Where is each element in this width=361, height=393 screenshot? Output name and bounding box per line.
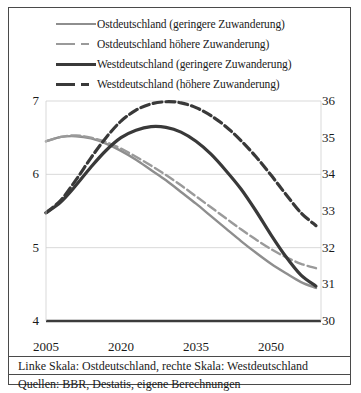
y-axis-right-tick-label: 30	[322, 314, 348, 327]
legend-swatch-black-solid-icon	[56, 57, 96, 71]
chart-series-group	[46, 102, 316, 288]
chart-legend: Ostdeutschland (geringere Zuwanderung) O…	[9, 12, 350, 92]
legend-swatch-black-dashed-icon	[56, 77, 96, 91]
y-axis-right-tick-label: 36	[322, 94, 348, 107]
y-axis-right-tick-label: 33	[322, 204, 348, 217]
legend-swatch-gray-solid-icon	[56, 17, 96, 31]
y-axis-left-tick-label: 5	[13, 241, 39, 254]
chart-plot-area: 7654 36353433323130	[9, 92, 350, 339]
footnote-divider-top	[9, 356, 350, 357]
y-axis-right-tick-label: 31	[322, 277, 348, 290]
x-axis-tick-label: 2050	[248, 339, 294, 354]
y-axis-right-ticks: 36353433323130	[322, 92, 350, 339]
y-axis-left-tick-label: 4	[13, 314, 39, 327]
legend-item-west-hoehere: Westdeutschland (höhere Zuwanderung)	[9, 74, 350, 94]
y-axis-left-tick-label: 7	[13, 94, 39, 107]
legend-swatch-gray-dashed-icon	[56, 37, 96, 51]
legend-label-west-geringere: Westdeutschland (geringere Zuwanderung)	[97, 57, 291, 71]
legend-item-west-geringere: Westdeutschland (geringere Zuwanderung)	[9, 54, 350, 74]
chart-series-line-2	[46, 126, 316, 286]
legend-label-west-hoehere: Westdeutschland (höhere Zuwanderung)	[97, 77, 280, 91]
legend-label-ost-geringere: Ostdeutschland (geringere Zuwanderung)	[97, 17, 285, 31]
chart-series-line-1	[46, 135, 316, 268]
x-axis-tick-label: 2035	[173, 339, 219, 354]
footnote-scales: Linke Skala: Ostdeutschland, rechte Skal…	[18, 359, 308, 373]
y-axis-left-ticks: 7654	[11, 92, 39, 339]
legend-item-ost-geringere: Ostdeutschland (geringere Zuwanderung)	[9, 14, 350, 34]
chart-canvas	[9, 92, 350, 339]
legend-item-ost-hoehere: Ostdeutschland höhere Zuwanderung)	[9, 34, 350, 54]
figure-panel: Ostdeutschland (geringere Zuwanderung) O…	[8, 7, 351, 385]
y-axis-left-tick-label: 6	[13, 167, 39, 180]
footnote-divider-middle	[9, 374, 350, 375]
chart-series-line-3	[46, 102, 316, 226]
x-axis-tick-label: 2005	[23, 339, 69, 354]
y-axis-right-tick-label: 32	[322, 241, 348, 254]
legend-label-ost-hoehere: Ostdeutschland höhere Zuwanderung)	[97, 37, 269, 51]
y-axis-right-tick-label: 35	[322, 131, 348, 144]
chart-series-line-0	[46, 136, 316, 288]
x-axis-tick-label: 2020	[98, 339, 144, 354]
y-axis-right-tick-label: 34	[322, 167, 348, 180]
footnote-sources: Quellen: BBR, Destatis, eigene Berechnun…	[18, 377, 241, 391]
